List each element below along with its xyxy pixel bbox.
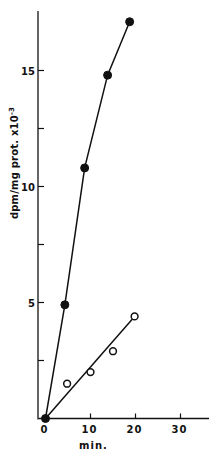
x-axis-label: min. [79, 440, 108, 451]
chart: 0102030min.51015 [0, 0, 221, 459]
filled-series-line [46, 22, 130, 419]
filled-circle-marker [126, 18, 134, 26]
filled-circle-marker [61, 301, 69, 309]
filled-circle-marker [81, 164, 89, 172]
x-tick-label: 10 [82, 424, 98, 435]
open-series-fit-line [46, 316, 135, 418]
y-tick-label: 5 [28, 298, 35, 309]
y-tick-label: 10 [21, 182, 35, 193]
x-tick-label: 30 [172, 424, 188, 435]
y-axis-label: dpm/mg prot. x10-3 [8, 107, 20, 219]
x-tick-label: 0 [41, 424, 49, 435]
filled-circle-marker [104, 71, 112, 79]
open-circle-marker [131, 313, 138, 320]
y-tick-label: 15 [21, 66, 35, 77]
open-circle-marker [64, 380, 71, 387]
open-circle-marker [87, 369, 94, 376]
x-tick-label: 20 [127, 424, 143, 435]
open-circle-marker [110, 348, 117, 355]
